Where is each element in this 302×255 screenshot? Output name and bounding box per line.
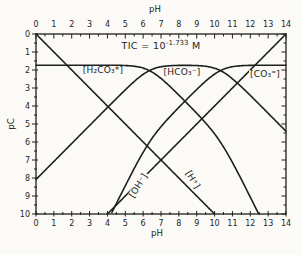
label-hco3: [HCO₃⁻]: [163, 68, 202, 78]
x-tick-label-bottom: 7: [158, 219, 163, 228]
pc-ph-diagram: 0011223344556677889910101111121213131414…: [0, 0, 302, 255]
x-axis-title-bottom: pH: [151, 229, 163, 238]
label-co3: [CO₃⁼]: [249, 70, 281, 80]
x-tick-label-bottom: 1: [51, 219, 56, 228]
chart-title-unit: M: [192, 40, 201, 51]
x-tick-label-top: 13: [263, 20, 273, 29]
y-axis-title: pC: [7, 118, 16, 129]
x-tick-label-bottom: 5: [123, 219, 128, 228]
y-tick-label: 5: [25, 120, 30, 129]
y-tick-label: 4: [25, 102, 30, 111]
chart-title-base: TIC = 10: [121, 40, 166, 51]
label-h2co3: [H₂CO₃*]: [82, 66, 124, 76]
curve-h2co3: [36, 65, 258, 213]
y-tick-label: 7: [25, 156, 30, 165]
x-tick-label-top: 2: [69, 20, 74, 29]
x-tick-label-bottom: 13: [263, 219, 273, 228]
x-tick-label-bottom: 4: [105, 219, 110, 228]
x-tick-label-top: 5: [123, 20, 128, 29]
x-tick-label-top: 9: [194, 20, 199, 29]
y-tick-label: 3: [25, 84, 30, 93]
x-tick-label-bottom: 3: [87, 219, 92, 228]
x-tick-label-top: 0: [33, 20, 38, 29]
x-tick-label-bottom: 2: [69, 219, 74, 228]
x-tick-label-top: 14: [281, 20, 291, 29]
y-tick-label: 9: [25, 192, 30, 201]
x-tick-label-bottom: 9: [194, 219, 199, 228]
x-tick-label-top: 12: [245, 20, 255, 29]
y-tick-label: 6: [25, 138, 30, 147]
chart-title: TIC = 10-1.733 M: [121, 40, 200, 51]
plot-frame: [36, 34, 286, 214]
curve-hco3: [36, 65, 286, 179]
x-tick-label-bottom: 12: [245, 219, 255, 228]
x-axis-title-top: pH: [149, 5, 161, 14]
x-tick-label-top: 8: [176, 20, 181, 29]
x-tick-label-top: 10: [209, 20, 219, 29]
x-tick-label-bottom: 0: [33, 219, 38, 228]
x-tick-label-bottom: 10: [209, 219, 219, 228]
x-tick-label-top: 7: [158, 20, 163, 29]
chart-title-exponent: -1.733: [166, 39, 189, 47]
x-tick-label-bottom: 6: [141, 219, 146, 228]
x-tick-label-bottom: 11: [227, 219, 237, 228]
y-tick-label: 0: [25, 30, 30, 39]
y-tick-label: 8: [25, 174, 30, 183]
y-tick-label: 10: [20, 210, 30, 219]
x-tick-label-top: 4: [105, 20, 110, 29]
x-tick-label-bottom: 8: [176, 219, 181, 228]
x-tick-label-top: 3: [87, 20, 92, 29]
y-tick-label: 2: [25, 66, 30, 75]
x-tick-label-bottom: 14: [281, 219, 291, 228]
x-tick-label-top: 6: [141, 20, 146, 29]
plot-svg: 0011223344556677889910101111121213131414…: [0, 0, 302, 255]
x-tick-label-top: 11: [227, 20, 237, 29]
y-tick-label: 1: [25, 48, 30, 57]
x-tick-label-top: 1: [51, 20, 56, 29]
